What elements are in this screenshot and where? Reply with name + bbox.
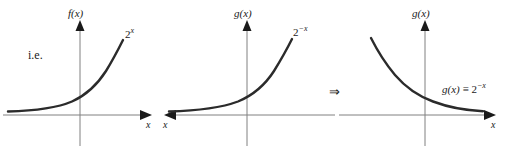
graph-panel-1: f(x) x 2x i.e.: [0, 0, 175, 156]
equation-exponent: −x: [477, 81, 486, 90]
panel-2-curve-label: 2−x: [293, 27, 307, 38]
panel-1-svg: [0, 0, 175, 156]
exponential-decay-curve: [371, 38, 483, 111]
panel-3-x-axis-label: x: [491, 120, 495, 130]
panel-1-curve-label: 2x: [125, 29, 134, 40]
y-axis-arrowhead-icon: [76, 20, 85, 31]
math-figure: f(x) x 2x i.e. g(x) x 2−x: [0, 0, 519, 156]
panel-1-x-axis-label: x: [146, 120, 150, 130]
graph-panel-3: g(x) x g(x) ≡ 2−x: [335, 0, 519, 156]
exponential-growth-curve: [169, 39, 292, 112]
panel-2-x-axis-label: x: [163, 120, 167, 130]
equation-lhs: g(x): [442, 83, 460, 95]
y-axis-arrowhead-icon: [421, 20, 430, 31]
y-axis-arrowhead-icon: [243, 20, 252, 31]
panel-2-y-axis-label: g(x): [234, 8, 252, 19]
panel-2-curve-exponent: −x: [299, 24, 308, 33]
panel-1-curve-exponent: x: [131, 26, 135, 35]
ie-label: i.e.: [28, 49, 43, 61]
panel-3-y-axis-label: g(x): [412, 8, 430, 19]
exponential-growth-curve: [8, 40, 123, 112]
panel-3-svg: [335, 0, 519, 156]
panel-3-equation-label: g(x) ≡ 2−x: [442, 84, 486, 95]
implies-symbol: ⇒: [329, 85, 340, 98]
panel-2-svg: [160, 0, 340, 156]
panel-1-y-axis-label: f(x): [68, 8, 83, 19]
graph-panel-2: g(x) x 2−x: [160, 0, 340, 156]
